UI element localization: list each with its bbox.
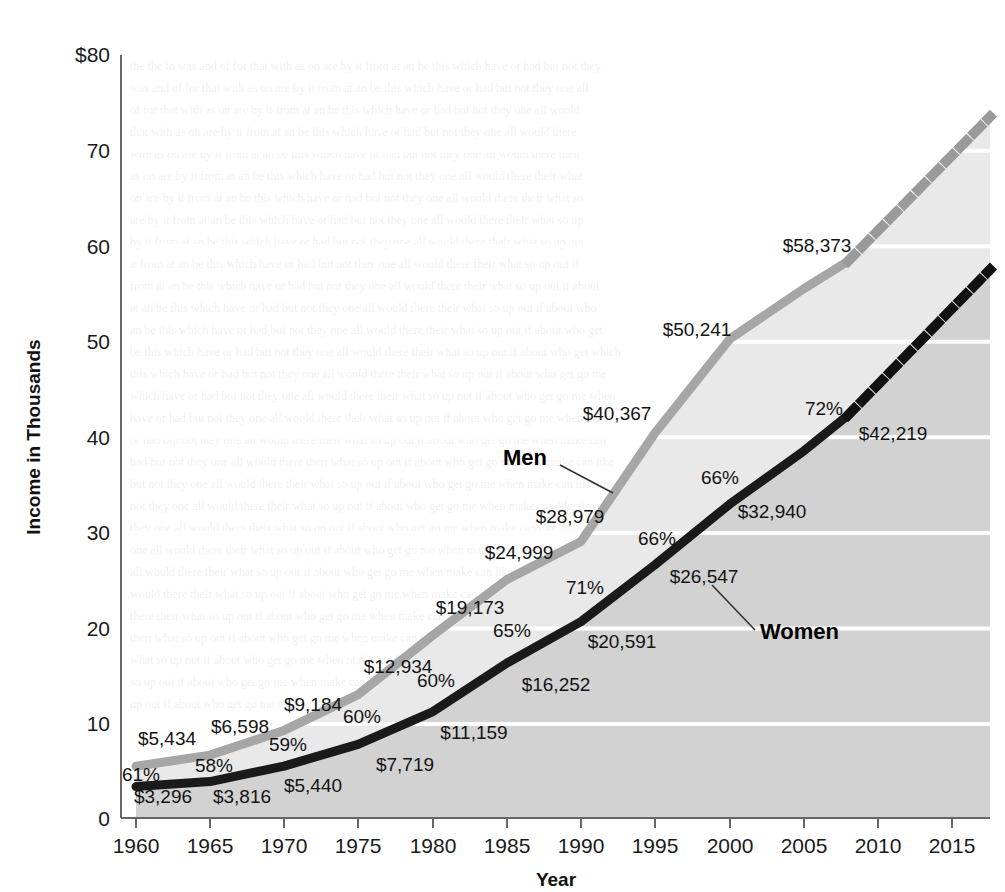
svg-text:which have or had but not they: which have or had but not they one all w…: [130, 389, 615, 403]
svg-text:have or had but not they one a: have or had but not they one all would t…: [130, 411, 612, 425]
y-tick-label: 70: [87, 139, 110, 162]
x-tick-label: 1965: [187, 834, 234, 857]
women-value-label: $5,440: [284, 775, 342, 796]
x-tick-label: 2010: [855, 834, 902, 857]
y-axis-title: Income in Thousands: [23, 339, 44, 534]
x-tick-label: 1960: [113, 834, 160, 857]
women-value-label: $32,940: [738, 501, 807, 522]
y-tick-label: 60: [87, 235, 110, 258]
women-value-label: $26,547: [670, 566, 739, 587]
y-tick-label: 10: [87, 712, 110, 735]
x-tick-label: 2015: [929, 834, 976, 857]
ratio-label: 65%: [493, 620, 531, 641]
x-tick-label: 2005: [781, 834, 828, 857]
chart-svg: the the in was and of for that with as o…: [0, 0, 1005, 892]
x-axis-tick-labels: 1960 1965 1970 1975 1980 1985 1990 1995 …: [113, 834, 976, 857]
y-tick-label: 0: [98, 807, 110, 830]
svg-text:this which have or had but not: this which have or had but not they one …: [130, 367, 607, 381]
x-tick-label: 1970: [261, 834, 308, 857]
x-tick-label: 1985: [484, 834, 531, 857]
svg-text:be this which have or had but: be this which have or had but not they o…: [130, 345, 621, 359]
women-value-label: $7,719: [376, 754, 434, 775]
ratio-label: 66%: [638, 528, 676, 549]
svg-text:from at an be this which have: from at an be this which have or had but…: [130, 279, 600, 293]
women-value-label: $3,816: [213, 786, 271, 807]
y-axis-tick-labels: $80 70 60 50 40 30 20 10 0: [75, 43, 110, 830]
men-value-label: $28,979: [536, 506, 605, 527]
x-tick-label: 2000: [707, 834, 754, 857]
women-value-label: $42,219: [859, 423, 928, 444]
x-tick-label: 1980: [410, 834, 457, 857]
men-value-label: $40,367: [583, 403, 652, 424]
x-tick-label: 1990: [558, 834, 605, 857]
men-value-label: $9,184: [284, 694, 343, 715]
svg-text:as on are by it from at an be: as on are by it from at an be this which…: [130, 169, 583, 183]
svg-text:the the in was and of for that: the the in was and of for that with as o…: [130, 59, 601, 73]
ratio-label: 71%: [566, 577, 604, 598]
y-tick-label: 30: [87, 521, 110, 544]
y-tick-label: 20: [87, 617, 110, 640]
svg-text:at an be this which have or ha: at an be this which have or had but not …: [130, 301, 597, 315]
svg-text:was and of for that with as on: was and of for that with as on are by it…: [130, 81, 589, 95]
men-value-label: $24,999: [485, 542, 554, 563]
svg-text:it from at an be this which ha: it from at an be this which have or had …: [130, 257, 579, 271]
women-value-label: $20,591: [588, 631, 657, 652]
svg-text:are by it from at an be this w: are by it from at an be this which have …: [130, 213, 583, 227]
ratio-label: 66%: [701, 467, 739, 488]
y-tick-label: 40: [87, 426, 110, 449]
men-value-label: $5,434: [138, 728, 197, 749]
x-tick-label: 1975: [335, 834, 382, 857]
men-value-label: $58,373: [783, 235, 852, 256]
women-value-label: $16,252: [522, 674, 591, 695]
ratio-label: 60%: [343, 706, 381, 727]
svg-text:of for that with as on are by: of for that with as on are by it from at…: [130, 103, 580, 117]
ratio-label: 59%: [269, 734, 307, 755]
ratio-label: 60%: [417, 670, 455, 691]
ratio-label: 72%: [805, 398, 843, 419]
x-axis-title: Year: [536, 869, 577, 890]
women-value-label: $11,159: [440, 722, 507, 743]
x-axis-ticks: [136, 818, 952, 828]
x-tick-label: 1995: [632, 834, 679, 857]
women-value-label: $3,296: [134, 786, 192, 807]
men-series-label: Men: [503, 445, 547, 470]
men-value-label: $50,241: [663, 319, 732, 340]
y-tick-label: $80: [75, 43, 110, 66]
svg-text:but not they one all would the: but not they one all would there their w…: [130, 477, 618, 491]
women-series-label: Women: [760, 619, 839, 644]
ratio-label: 61%: [122, 764, 160, 785]
y-tick-label: 50: [87, 330, 110, 353]
svg-text:that with as on are by it from: that with as on are by it from at an be …: [130, 125, 577, 139]
svg-text:an be this which have or had b: an be this which have or had but not the…: [130, 323, 603, 337]
men-value-label: $6,598: [211, 716, 269, 737]
svg-text:on are by it from at an be thi: on are by it from at an be this which ha…: [130, 191, 583, 205]
ratio-label: 58%: [195, 755, 233, 776]
income-gap-line-chart: the the in was and of for that with as o…: [0, 0, 1005, 892]
men-value-label: $19,173: [436, 597, 505, 618]
